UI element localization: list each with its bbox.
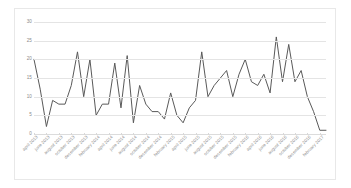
gridline-10 — [34, 97, 326, 98]
gridline-5 — [34, 115, 326, 116]
y-tick-label-10: 10 — [27, 94, 32, 99]
gridline-15 — [34, 78, 326, 79]
gridline-25 — [34, 41, 326, 42]
plot-area — [34, 22, 326, 134]
y-tick-label-5: 5 — [29, 113, 32, 118]
line-chart: 051015202530 april 2013june 2013august 2… — [14, 8, 336, 180]
y-tick-label-20: 20 — [27, 57, 32, 62]
x-axis: april 2013june 2013august 2013october 20… — [34, 135, 326, 180]
y-tick-label-30: 30 — [27, 20, 32, 25]
y-tick-label-25: 25 — [27, 38, 32, 43]
gridline-30 — [34, 22, 326, 23]
y-tick-label-0: 0 — [29, 132, 32, 137]
y-tick-label-15: 15 — [27, 76, 32, 81]
y-axis: 051015202530 — [14, 22, 32, 134]
gridline-20 — [34, 59, 326, 60]
